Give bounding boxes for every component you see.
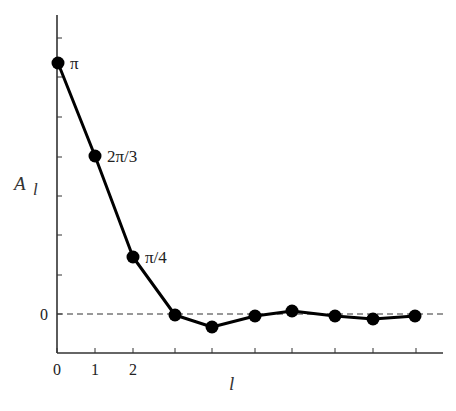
y-axis-label-main: A <box>12 173 26 194</box>
data-point <box>206 321 219 334</box>
data-point <box>409 310 422 323</box>
y-tick-label-zero: 0 <box>40 306 48 323</box>
data-points <box>52 57 422 334</box>
data-point <box>286 305 299 318</box>
x-tick-label: 0 <box>53 361 61 378</box>
axes <box>57 15 443 353</box>
data-point <box>367 313 380 326</box>
y-axis-label-sub: l <box>33 180 38 199</box>
chart: 0 A l l 012π2π/3π/4 <box>0 0 456 411</box>
data-point-label: π/4 <box>145 248 167 267</box>
series-line <box>58 63 415 327</box>
data-point <box>127 251 140 264</box>
x-tick-label: 2 <box>129 361 137 378</box>
y-axis-label: A l <box>12 173 38 199</box>
labels: 0 A l l 012π2π/3π/4 <box>12 54 234 394</box>
x-tick-label: 1 <box>91 361 99 378</box>
data-point-label: π <box>70 54 79 73</box>
data-point-label: 2π/3 <box>107 147 137 166</box>
data-point <box>52 57 65 70</box>
data-point <box>169 309 182 322</box>
data-point <box>249 310 262 323</box>
x-axis-label: l <box>229 373 234 394</box>
data-point <box>329 310 342 323</box>
data-point <box>89 150 102 163</box>
